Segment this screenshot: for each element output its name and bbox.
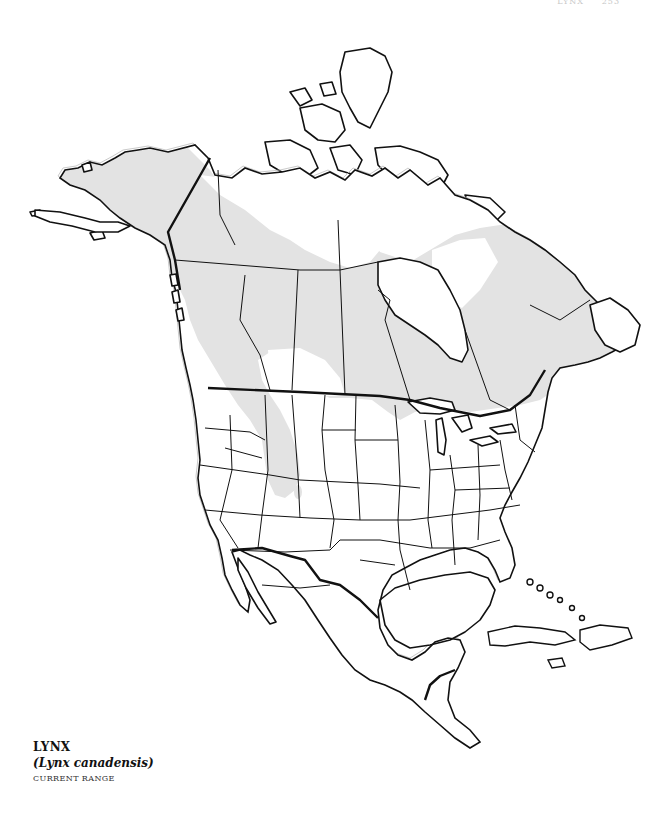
species-common-name: LYNX [33,740,154,754]
species-scientific-name: (Lynx canadensis) [33,756,154,770]
range-caption: CURRENT RANGE [33,774,154,783]
north-america-map-svg [0,0,670,814]
range-map [0,0,670,814]
map-legend: LYNX (Lynx canadensis) CURRENT RANGE [33,740,154,783]
caribbean-islands [488,579,632,668]
gulf-of-mexico [380,572,495,648]
colorado-range-patch [294,485,302,499]
